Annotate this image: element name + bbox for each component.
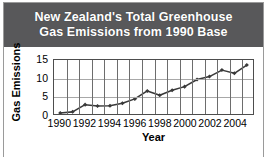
chart-figure: New Zealand's Total Greenhouse Gas Emiss… [0,0,270,161]
data-point-marker [120,101,124,105]
x-tick-label: 1998 [148,117,171,129]
figure-frame: New Zealand's Total Greenhouse Gas Emiss… [3,2,264,157]
gridline-vertical [92,60,93,114]
chart-title-bar: New Zealand's Total Greenhouse Gas Emiss… [4,3,263,47]
chart-title-line-1: New Zealand's Total Greenhouse [34,10,232,25]
gridline-vertical [217,60,218,114]
gridline-vertical [167,60,168,114]
gridline-vertical [67,60,68,114]
x-tick-label: 1990 [48,117,71,129]
y-tick-label: 10 [36,72,48,84]
y-axis-ticks: 051015 [24,55,50,117]
y-tick-label: 15 [36,53,48,65]
y-tick-label: 5 [42,90,48,102]
data-point-marker [95,104,99,108]
x-tick-label: 1996 [123,117,146,129]
x-axis-ticks: 19901992199419961998200020022004 [53,117,254,131]
data-point-marker [108,104,112,108]
plot-area [53,59,254,115]
gridline-horizontal [54,97,253,98]
x-axis-label: Year [53,131,254,143]
series-line-emissions [54,60,253,114]
gridline-vertical [192,60,193,114]
gridline-vertical [129,60,130,114]
gridline-horizontal [54,79,253,80]
x-tick-label: 1994 [98,117,121,129]
x-tick-label: 1992 [73,117,96,129]
gridline-vertical [205,60,206,114]
x-tick-label: 2000 [173,117,196,129]
x-tick-label: 2004 [224,117,247,129]
gridline-vertical [242,60,243,114]
y-axis-label: Gas Emissions [8,49,24,115]
gridline-vertical [180,60,181,114]
gridline-vertical [104,60,105,114]
y-axis-label-text: Gas Emissions [10,43,22,122]
chart-title-line-2: Gas Emissions from 1990 Base [39,25,227,40]
gridline-vertical [117,60,118,114]
gridline-vertical [155,60,156,114]
gridline-vertical [142,60,143,114]
x-tick-label: 2002 [198,117,221,129]
gridline-vertical [230,60,231,114]
gridline-vertical [79,60,80,114]
